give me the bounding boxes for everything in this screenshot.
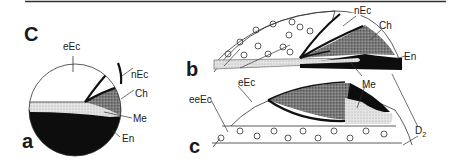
eeec-band-c bbox=[220, 126, 398, 143]
panel-label-C: C bbox=[24, 23, 38, 45]
embryo-section-diagram: C eEc nEc Ch Me En a nEc bbox=[0, 0, 450, 163]
panel-c-section bbox=[212, 82, 412, 147]
label-eEc-c: eEc bbox=[238, 77, 255, 88]
label-En-a: En bbox=[122, 133, 134, 144]
panel-a-circle bbox=[25, 60, 128, 160]
label-Me-a: Me bbox=[133, 113, 147, 124]
panel-label-c: c bbox=[189, 135, 200, 157]
panel-label-a: a bbox=[22, 130, 34, 152]
label-D2-main: D bbox=[415, 125, 422, 136]
label-nEc-b: nEc bbox=[354, 5, 371, 16]
label-En-b: En bbox=[404, 51, 416, 62]
label-Ch-a: Ch bbox=[135, 88, 148, 99]
panel-b-section bbox=[214, 11, 402, 72]
label-Me-c: Me bbox=[362, 79, 376, 90]
label-Ch-b: Ch bbox=[379, 20, 392, 31]
label-eEc-a: eEc bbox=[63, 41, 80, 52]
label-D2: D2 bbox=[415, 125, 426, 138]
label-nEc-a: nEc bbox=[131, 69, 148, 80]
panel-label-b: b bbox=[186, 58, 198, 80]
label-eeEc-c: eeEc bbox=[189, 94, 212, 105]
label-D2-sub: 2 bbox=[422, 131, 426, 138]
